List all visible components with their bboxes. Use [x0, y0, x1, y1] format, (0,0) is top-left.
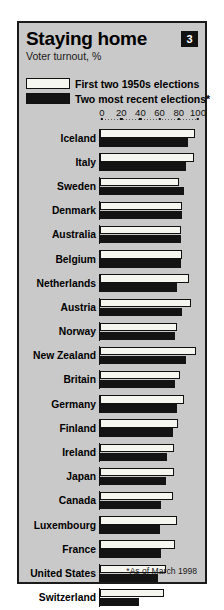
bar-most-recent	[100, 477, 166, 485]
country-label: Norway	[26, 326, 100, 337]
country-label: Austria	[26, 302, 100, 313]
chart-row: Britain	[26, 368, 198, 392]
bar-most-recent	[100, 283, 177, 291]
bar-group	[100, 225, 198, 244]
bar-group	[100, 395, 198, 414]
country-label: Canada	[26, 495, 100, 506]
bar-first-1950s	[100, 468, 174, 476]
legend-item-first-1950s: First two 1950s elections	[26, 77, 198, 90]
country-label: Britain	[26, 374, 100, 385]
country-label: Denmark	[26, 205, 100, 216]
axis-tick-label: 100	[190, 107, 206, 118]
chart-row: France	[26, 537, 198, 561]
figure-number-badge: 3	[181, 31, 198, 47]
chart-row: Finland	[26, 416, 198, 440]
bar-most-recent	[100, 356, 186, 364]
chart-row: Switzerland	[26, 586, 198, 610]
axis-tick-label: 80	[174, 107, 185, 118]
country-label: Italy	[26, 157, 100, 168]
bar-group	[100, 274, 198, 293]
chart-panel: Staying home Voter turnout, % 3 First tw…	[17, 21, 207, 584]
chart-row: Australia	[26, 223, 198, 247]
bar-most-recent	[100, 259, 181, 267]
bar-most-recent	[100, 525, 160, 533]
bar-group	[100, 201, 198, 220]
bar-first-1950s	[100, 395, 184, 403]
axis-tick-label: 60	[154, 107, 165, 118]
country-label: Luxembourg	[26, 520, 100, 531]
chart-row: Canada	[26, 489, 198, 513]
country-label: Finland	[26, 423, 100, 434]
bar-most-recent	[100, 211, 182, 219]
bar-first-1950s	[100, 226, 181, 234]
legend-label: First two 1950s elections	[75, 78, 199, 90]
bar-first-1950s	[100, 540, 175, 548]
chart-row: Austria	[26, 295, 198, 319]
country-label: Iceland	[26, 133, 100, 144]
bar-most-recent	[100, 453, 167, 461]
bar-group	[100, 443, 198, 462]
chart-row: Italy	[26, 150, 198, 174]
bar-first-1950s	[100, 323, 177, 331]
country-label: Ireland	[26, 447, 100, 458]
bar-first-1950s	[100, 347, 196, 355]
legend-item-most-recent: Two most recent elections*	[26, 92, 198, 105]
bar-group	[100, 322, 198, 341]
bar-group	[100, 370, 198, 389]
chart-row: Belgium	[26, 247, 198, 271]
axis-tick-label: 40	[135, 107, 146, 118]
country-label: Germany	[26, 399, 100, 410]
bar-most-recent	[100, 549, 161, 557]
axis-tick-mark	[139, 118, 141, 120]
axis-tick-label: 0	[99, 107, 104, 118]
chart-row: Iceland	[26, 126, 198, 150]
axis-tick-mark	[120, 118, 122, 120]
bar-first-1950s	[100, 492, 173, 500]
bar-group	[100, 346, 198, 365]
bar-group	[100, 298, 198, 317]
country-label: France	[26, 544, 100, 555]
chart-row: Sweden	[26, 174, 198, 198]
country-label: Switzerland	[26, 592, 100, 603]
country-label: Sweden	[26, 181, 100, 192]
bar-group	[100, 250, 198, 269]
bar-most-recent	[100, 380, 175, 388]
chart-subtitle: Voter turnout, %	[26, 50, 198, 62]
country-label: Japan	[26, 471, 100, 482]
chart-row: New Zealand	[26, 344, 198, 368]
bar-first-1950s	[100, 589, 164, 597]
country-label: United States	[26, 568, 100, 579]
bar-first-1950s	[100, 250, 182, 258]
bar-first-1950s	[100, 444, 174, 452]
chart-row: Luxembourg	[26, 513, 198, 537]
axis-tick-label: 20	[116, 107, 127, 118]
bar-first-1950s	[100, 299, 191, 307]
chart-footnote: *As of March 1998	[126, 566, 197, 576]
legend-swatch-white-icon	[26, 78, 70, 89]
axis-tick-mark	[197, 118, 199, 120]
legend-swatch-black-icon	[26, 93, 70, 104]
bar-first-1950s	[100, 178, 179, 186]
country-label: Netherlands	[26, 278, 100, 289]
bar-most-recent	[100, 598, 139, 606]
bar-first-1950s	[100, 202, 182, 210]
chart-row: Denmark	[26, 199, 198, 223]
bar-group	[100, 129, 198, 148]
bar-most-recent	[100, 308, 182, 316]
chart-row: Germany	[26, 392, 198, 416]
chart-legend: First two 1950s elections Two most recen…	[26, 77, 198, 105]
country-label: Australia	[26, 229, 100, 240]
axis-dotted-line	[102, 119, 198, 121]
bar-first-1950s	[100, 153, 194, 161]
chart-header: Staying home Voter turnout, % 3	[26, 29, 198, 75]
chart-row: Norway	[26, 320, 198, 344]
bar-most-recent	[100, 404, 177, 412]
bar-group	[100, 153, 198, 172]
bar-first-1950s	[100, 129, 195, 137]
bar-first-1950s	[100, 274, 189, 282]
axis-tick-mark	[158, 118, 160, 120]
bar-most-recent	[100, 138, 188, 146]
bar-group	[100, 588, 198, 607]
legend-label: Two most recent elections*	[75, 93, 210, 105]
